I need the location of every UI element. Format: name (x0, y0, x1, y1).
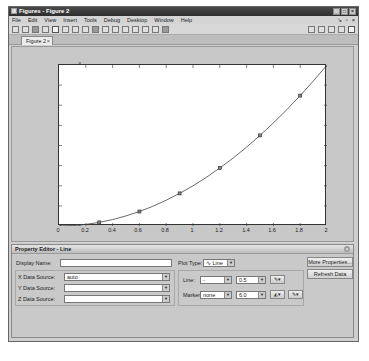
x-tick-label: 0.8 (157, 227, 173, 233)
matlab-figure-icon (11, 8, 17, 14)
dropdown-arrow-icon[interactable]: ▼ (162, 296, 169, 302)
pen-icon: ✎▾ (292, 291, 299, 297)
property-editor-close-icon[interactable]: × (344, 246, 350, 252)
dropdown-arrow-icon[interactable]: ▼ (227, 260, 234, 266)
figure-tabs: Figure 2 × (9, 35, 358, 45)
show-tools-icon[interactable] (162, 26, 169, 33)
line-color-button[interactable]: ✎▾ (270, 275, 285, 284)
print-icon[interactable] (42, 26, 49, 33)
menu-file[interactable]: File (12, 16, 21, 24)
legend-icon[interactable] (142, 26, 149, 33)
menu-help[interactable]: Help (181, 16, 192, 24)
property-editor: Property Editor - Line × Display Name: X… (11, 244, 354, 338)
maximize-icon[interactable] (348, 26, 355, 33)
plot-type-combo[interactable]: ∿ Line ▼ (203, 259, 235, 267)
dropdown-arrow-icon[interactable]: ▼ (162, 274, 169, 280)
line-width-combo[interactable]: 0.5 ▼ (236, 276, 266, 284)
title-bar: Figures - Figure 2 _ □ × (9, 7, 358, 16)
more-properties-button[interactable]: More Properties... (307, 257, 353, 267)
z-data-source-combo[interactable]: ▼ (64, 295, 170, 303)
x-data-source-label: X Data Source: (18, 274, 55, 280)
pan-icon[interactable] (82, 26, 89, 33)
line-width-value: 0.5 (239, 277, 247, 283)
x-tick-label: 2 (318, 227, 334, 233)
window-title: Figures - Figure 2 (19, 8, 69, 14)
restore-icon[interactable]: ▫ (346, 16, 348, 24)
figures-window: Figures - Figure 2 _ □ × File Edit View … (8, 6, 359, 342)
link-icon[interactable] (122, 26, 129, 33)
left-right-icon[interactable] (318, 26, 325, 33)
x-tick-label: 0.2 (77, 227, 93, 233)
zoom-out-icon[interactable] (72, 26, 79, 33)
brush-icon[interactable] (112, 26, 119, 33)
x-tick-label: 0 (50, 227, 66, 233)
x-tick-label: 1.6 (264, 227, 280, 233)
marker-size-combo[interactable]: 6.0 ▼ (236, 291, 266, 299)
x-tick-label: 1.8 (291, 227, 307, 233)
top-bottom-icon[interactable] (328, 26, 335, 33)
figure-canvas: 4 3.5 3 2.5 2 1.5 1 0.5 0 (11, 46, 354, 242)
marker-fill-color-button[interactable]: ◭▾ (270, 290, 285, 299)
tab-close-icon[interactable]: × (47, 37, 50, 45)
x-tick-label: 1.4 (238, 227, 254, 233)
x-data-source-value: auto (67, 274, 78, 280)
line-label: Line: (183, 277, 195, 283)
edit-plot-icon[interactable] (52, 26, 59, 33)
y-data-source-label: Y Data Source: (18, 285, 55, 291)
line-plot[interactable] (59, 65, 327, 226)
plot-axes[interactable] (58, 64, 326, 225)
tab-label: Figure 2 (26, 38, 46, 44)
y-data-source-combo[interactable]: ▼ (64, 284, 170, 292)
menu-edit[interactable]: Edit (28, 16, 37, 24)
x-data-source-combo[interactable]: auto ▼ (64, 273, 170, 281)
marker-label: Marker: (183, 292, 202, 298)
paint-bucket-icon: ◭▾ (274, 291, 281, 297)
menu-desktop[interactable]: Desktop (127, 16, 147, 24)
marker-size-value: 6.0 (239, 292, 247, 298)
data-cursor-icon[interactable] (102, 26, 109, 33)
x-tick-label: 1 (184, 227, 200, 233)
z-data-source-label: Z Data Source: (18, 296, 55, 302)
x-tick-label: 0.4 (104, 227, 120, 233)
refresh-data-button[interactable]: Refresh Data (307, 269, 353, 279)
menu-window[interactable]: Window (154, 16, 174, 24)
plot-type-label: Plot Type: (178, 260, 202, 266)
display-name-input[interactable] (60, 259, 172, 267)
maximize-button[interactable]: □ (341, 8, 348, 15)
display-name-label: Display Name: (16, 260, 52, 266)
minimize-button[interactable]: _ (333, 8, 340, 15)
open-icon[interactable] (22, 26, 29, 33)
tile-icon[interactable] (308, 26, 315, 33)
rotate-icon[interactable] (92, 26, 99, 33)
close-button[interactable]: × (349, 8, 356, 15)
menu-insert[interactable]: Insert (63, 16, 77, 24)
colorbar-icon[interactable] (132, 26, 139, 33)
dropdown-arrow-icon[interactable]: ▼ (258, 277, 265, 283)
line-style-combo[interactable]: - ▼ (200, 276, 232, 284)
close-figure-icon[interactable]: × (352, 16, 355, 24)
dropdown-arrow-icon[interactable]: ▼ (162, 285, 169, 291)
dropdown-arrow-icon[interactable]: ▼ (224, 277, 231, 283)
pen-icon: ✎▾ (274, 276, 281, 282)
marker-edge-color-button[interactable]: ✎▾ (288, 290, 303, 299)
line-style-value: - (203, 277, 205, 283)
tab-figure-2[interactable]: Figure 2 × (21, 36, 53, 45)
zoom-in-icon[interactable] (62, 26, 69, 33)
menu-debug[interactable]: Debug (104, 16, 120, 24)
dropdown-arrow-icon[interactable]: ▼ (258, 292, 265, 298)
marker-style-value: none (203, 292, 215, 298)
new-figure-icon[interactable] (12, 26, 19, 33)
dropdown-arrow-icon[interactable]: ▼ (224, 292, 231, 298)
menu-view[interactable]: View (44, 16, 56, 24)
menu-tools[interactable]: Tools (84, 16, 97, 24)
figure-toolbar (9, 24, 358, 35)
save-icon[interactable] (32, 26, 39, 33)
plot-type-value: Line (213, 260, 223, 266)
x-tick-label: 1.2 (211, 227, 227, 233)
marker-style-combo[interactable]: none ▼ (200, 291, 232, 299)
x-tick-label: 0.6 (130, 227, 146, 233)
hide-tools-icon[interactable] (152, 26, 159, 33)
property-editor-title: Property Editor - Line (12, 245, 353, 254)
float-icon[interactable] (338, 26, 345, 33)
undock-icon[interactable]: ↘ (337, 16, 342, 24)
